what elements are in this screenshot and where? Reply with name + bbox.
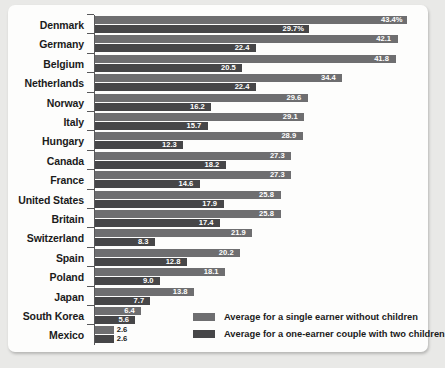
- bar-single: [95, 326, 114, 334]
- category-label: Japan: [54, 287, 84, 307]
- category-label: Netherlands: [24, 73, 84, 93]
- category-label: Italy: [63, 112, 84, 132]
- bar-value-label: 29.1: [283, 113, 298, 121]
- bar-couple: [95, 83, 256, 91]
- category-label: Poland: [50, 267, 84, 287]
- bar-value-label: 21.9: [231, 229, 246, 237]
- bar-value-label: 18.2: [204, 161, 219, 169]
- category-label: Germany: [39, 34, 84, 54]
- bar-single: [95, 35, 398, 43]
- category-label: Hungary: [42, 131, 84, 151]
- legend-label: Average for a one-earner couple with two…: [224, 327, 445, 342]
- bar-value-label: 20.5: [221, 64, 236, 72]
- chart-row: Spain20.212.8: [8, 248, 428, 268]
- bar-value-label: 12.3: [162, 141, 177, 149]
- bar-single: [95, 171, 291, 179]
- bar-value-label: 18.1: [204, 268, 219, 276]
- chart-row: Switzerland21.98.3: [8, 228, 428, 248]
- bar-value-label: 28.9: [281, 132, 296, 140]
- bar-single: [95, 210, 281, 218]
- bar-value-label: 41.8: [374, 55, 389, 63]
- bar-couple: [95, 335, 114, 343]
- category-label: Switzerland: [27, 228, 84, 248]
- bar-value-label: 43.4%: [381, 16, 403, 24]
- plot-area: Denmark43.4%29.7%Germany42.122.4Belgium4…: [8, 5, 428, 352]
- bar-value-label: 22.4: [235, 44, 250, 52]
- bar-single: [95, 94, 308, 102]
- bar-value-label: 27.3: [270, 152, 285, 160]
- category-label: Canada: [47, 151, 84, 171]
- bar-single: [95, 55, 396, 63]
- bar-value-label: 2.6: [117, 335, 128, 343]
- bar-value-label: 16.2: [190, 103, 205, 111]
- bar-value-label: 7.7: [134, 297, 145, 305]
- bar-value-label: 5.6: [118, 316, 129, 324]
- category-label: United States: [18, 190, 84, 210]
- category-label: Denmark: [40, 15, 84, 35]
- chart-panel: Denmark43.4%29.7%Germany42.122.4Belgium4…: [8, 5, 428, 352]
- bar-value-label: 25.8: [259, 210, 274, 218]
- bar-couple: [95, 25, 309, 33]
- bar-value-label: 12.8: [166, 258, 181, 266]
- bar-value-label: 27.3: [270, 171, 285, 179]
- bar-single: [95, 16, 407, 24]
- bar-value-label: 29.7%: [283, 25, 305, 33]
- chart-row: Poland18.19.0: [8, 267, 428, 287]
- legend-swatch-single: [193, 313, 215, 321]
- legend-label: Average for a single earner without chil…: [224, 310, 418, 325]
- bar-single: [95, 74, 342, 82]
- chart-row: Belgium41.820.5: [8, 54, 428, 74]
- bar-value-label: 25.8: [259, 191, 274, 199]
- bar-value-label: 8.3: [138, 238, 149, 246]
- bar-value-label: 14.6: [179, 180, 194, 188]
- category-label: Britain: [51, 209, 84, 229]
- chart-row: Norway29.616.2: [8, 93, 428, 113]
- bar-value-label: 15.7: [186, 122, 201, 130]
- chart-row: France27.314.6: [8, 170, 428, 190]
- bar-value-label: 17.4: [199, 219, 214, 227]
- bar-value-label: 2.6: [117, 326, 128, 334]
- category-label: Belgium: [43, 54, 84, 74]
- chart-row: Italy29.115.7: [8, 112, 428, 132]
- bar-single: [95, 229, 252, 237]
- bar-value-label: 13.8: [173, 288, 188, 296]
- chart-row: Hungary28.912.3: [8, 131, 428, 151]
- category-label: Norway: [47, 93, 84, 113]
- chart-row: Canada27.318.2: [8, 151, 428, 171]
- chart-row: United States25.817.9: [8, 190, 428, 210]
- bar-value-label: 29.6: [286, 94, 301, 102]
- category-label: Spain: [56, 248, 84, 268]
- chart-row: Denmark43.4%29.7%: [8, 15, 428, 35]
- category-label: France: [50, 170, 84, 190]
- bar-value-label: 22.4: [235, 83, 250, 91]
- bar-value-label: 17.9: [202, 200, 217, 208]
- category-label: Mexico: [49, 325, 84, 345]
- bar-value-label: 6.4: [124, 307, 135, 315]
- bar-value-label: 20.2: [219, 249, 234, 257]
- category-label: South Korea: [23, 306, 84, 326]
- chart-row: Germany42.122.4: [8, 34, 428, 54]
- bar-couple: [95, 44, 256, 52]
- chart-row: Britain25.817.4: [8, 209, 428, 229]
- bar-single: [95, 152, 291, 160]
- legend-swatch-couple: [193, 330, 215, 338]
- bar-couple: [95, 316, 135, 324]
- bar-value-label: 9.0: [143, 277, 154, 285]
- chart-row: Netherlands34.422.4: [8, 73, 428, 93]
- bar-single: [95, 132, 303, 140]
- chart-row: Japan13.87.7: [8, 287, 428, 307]
- bar-single: [95, 113, 304, 121]
- bar-value-label: 34.4: [321, 74, 336, 82]
- bar-single: [95, 191, 281, 199]
- bar-value-label: 42.1: [376, 35, 391, 43]
